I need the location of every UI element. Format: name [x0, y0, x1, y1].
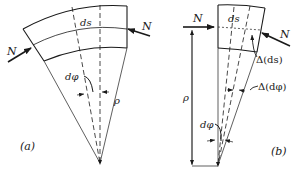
label-dphi-a: dφ [65, 71, 78, 82]
dphi-tick-left [77, 94, 84, 95]
caption-a: (a) [20, 140, 35, 153]
label-n-right-a: N [141, 20, 152, 33]
block-bottom-b [218, 48, 257, 52]
label-dphi-b: dφ [200, 119, 213, 130]
label-rho-b: ρ [182, 92, 189, 103]
centroidal-line-b [218, 27, 261, 30]
caption-b: (b) [271, 145, 287, 158]
dphi-leader [84, 76, 93, 92]
label-n-left-a: N [6, 45, 17, 58]
centroidal-arc [33, 27, 127, 45]
delta-dphi-leader [250, 86, 258, 90]
curved-beam-element-figure: ds N N dφ ρ (a) [0, 0, 292, 178]
label-ds-b: ds [228, 13, 240, 24]
label-delta-ds: Δ(ds) [256, 54, 283, 65]
center-point [98, 160, 102, 165]
block-top-b [218, 5, 265, 8]
label-delta-dphi: Δ(dφ) [258, 81, 287, 92]
label-ds-a: ds [80, 17, 92, 28]
label-rho-a: ρ [113, 95, 120, 106]
label-n-right-b: N [279, 28, 290, 41]
label-n-left-b: N [192, 12, 203, 25]
inner-arc [44, 47, 127, 61]
dphi-tick-left-b [207, 140, 215, 141]
